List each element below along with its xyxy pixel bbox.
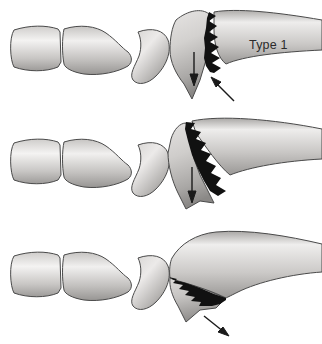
crescent-sesamoid-bone bbox=[132, 256, 170, 310]
middle-phalanx bbox=[63, 26, 132, 74]
fracture-panel-type-1: Type 1 bbox=[0, 0, 322, 115]
fracture-panel-type-3: Type 3 bbox=[0, 228, 322, 343]
distal-phalanx bbox=[11, 252, 61, 297]
proximal-phalanx-base-fragment bbox=[170, 11, 210, 99]
distal-phalanx bbox=[11, 26, 61, 71]
middle-phalanx bbox=[63, 139, 132, 187]
crescent-sesamoid-bone bbox=[132, 143, 170, 197]
crescent-sesamoid-bone bbox=[132, 30, 170, 84]
distal-phalanx bbox=[11, 139, 61, 184]
middle-phalanx bbox=[63, 252, 132, 300]
fracture-panel-type-2: Type 2 bbox=[0, 113, 322, 228]
type-1-label: Type 1 bbox=[249, 38, 288, 52]
down-right-arrow bbox=[204, 316, 229, 336]
up-right-arrow bbox=[211, 77, 234, 101]
